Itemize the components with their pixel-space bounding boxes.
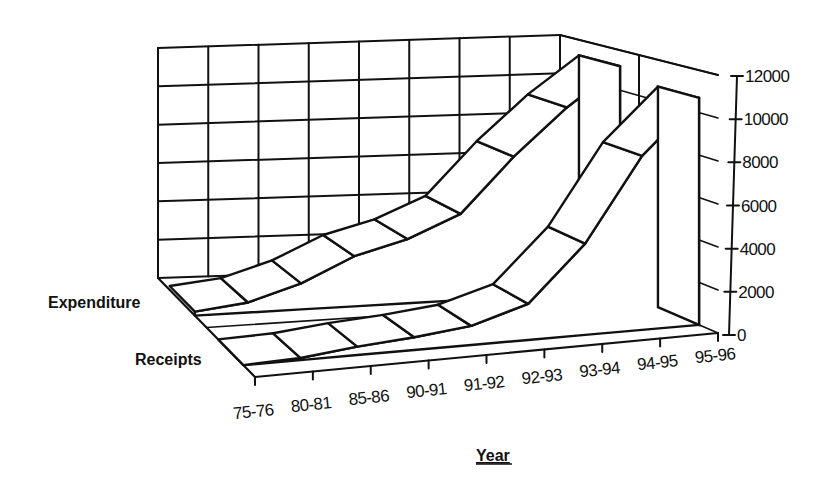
- ribbon-chart: 020004000600080001000012000 75-7680-8185…: [0, 0, 832, 486]
- y-axis: 020004000600080001000012000: [723, 67, 789, 345]
- x-tick-label: 75-76: [232, 400, 274, 423]
- x-tick-label: 80-81: [290, 393, 332, 416]
- x-tick-label: 94-95: [636, 351, 678, 374]
- series-label-expenditure: Expenditure: [48, 294, 141, 311]
- y-tick-label: 2000: [738, 283, 774, 302]
- x-tick-label: 85-86: [348, 386, 390, 409]
- y-tick-label: 10000: [744, 110, 788, 129]
- x-tick-label: 91-92: [463, 372, 505, 395]
- y-tick-label: 12000: [745, 67, 789, 86]
- x-axis-title: Year: [476, 447, 510, 464]
- y-tick-label: 6000: [741, 197, 777, 216]
- x-tick-label: 93-94: [578, 358, 620, 381]
- x-tick-label: 90-91: [405, 379, 447, 402]
- x-tick-label: 92-93: [521, 365, 563, 388]
- data-ribbons: [170, 55, 699, 365]
- x-tick-label: 95-96: [694, 344, 736, 367]
- series-label-receipts: Receipts: [135, 351, 202, 368]
- y-tick-label: 4000: [740, 240, 776, 259]
- y-tick-label: 8000: [742, 153, 778, 172]
- y-tick-label: 0: [737, 326, 746, 345]
